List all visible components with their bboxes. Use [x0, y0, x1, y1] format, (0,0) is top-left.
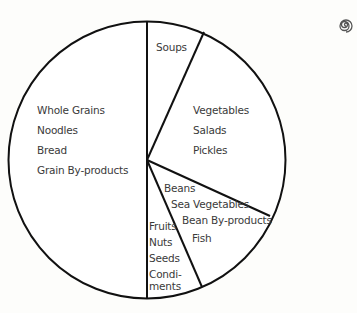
spiral-icon — [338, 18, 354, 34]
label-salads: Salads — [193, 124, 226, 136]
label-pickles: Pickles — [193, 144, 227, 156]
label-fruits: Fruits — [149, 220, 177, 232]
label-bean-by-products: Bean By-products — [182, 214, 272, 226]
label-soups: Soups — [156, 41, 187, 53]
label-condiments-1: Condi- — [149, 268, 182, 280]
label-whole-grains: Whole Grains — [37, 104, 105, 116]
label-grain-by-products: Grain By-products — [37, 164, 128, 176]
label-bread: Bread — [37, 144, 67, 156]
label-noodles: Noodles — [37, 124, 78, 136]
label-seeds: Seeds — [149, 252, 180, 264]
label-nuts: Nuts — [149, 236, 172, 248]
label-vegetables: Vegetables — [193, 104, 249, 116]
label-fish: Fish — [192, 232, 212, 244]
label-beans: Beans — [164, 182, 195, 194]
label-sea-vegetables: Sea Vegetables — [171, 198, 249, 210]
label-condiments-2: ments — [149, 280, 181, 292]
